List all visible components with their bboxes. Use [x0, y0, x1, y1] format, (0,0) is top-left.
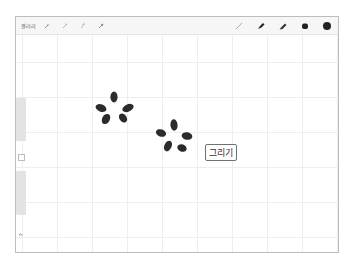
brush-icon[interactable] [274, 20, 292, 32]
brush-size-slider[interactable] [16, 98, 26, 141]
eraser-circle-icon[interactable] [318, 20, 336, 32]
brush-tools [229, 17, 336, 34]
wand-icon[interactable] [60, 21, 70, 31]
top-toolbar: 갤러리 [16, 17, 338, 35]
selection-icon[interactable] [78, 21, 88, 31]
undo-icon[interactable] [18, 223, 24, 229]
paw-stamp-1 [93, 87, 137, 131]
modify-button[interactable] [18, 154, 25, 161]
wrench-icon[interactable] [42, 21, 52, 31]
marker-icon[interactable] [252, 20, 270, 32]
pencil-icon[interactable] [230, 20, 248, 32]
draw-button[interactable]: 그리기 [205, 144, 237, 161]
smudge-icon[interactable] [296, 20, 314, 32]
opacity-slider[interactable] [16, 171, 26, 215]
arrow-icon[interactable] [96, 21, 106, 31]
left-sidebar [16, 97, 27, 247]
paw-stamp-2 [156, 117, 200, 157]
gallery-button[interactable]: 갤러리 [21, 22, 37, 29]
drawing-canvas[interactable]: 갤러리 [15, 16, 339, 253]
